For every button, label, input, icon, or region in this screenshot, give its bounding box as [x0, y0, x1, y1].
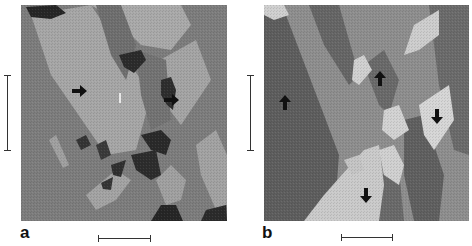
horizontal-scale-bar-a — [98, 238, 151, 239]
panel-label-b: b — [262, 224, 272, 241]
horizontal-scale-bar-b — [341, 237, 393, 238]
arrow-up-icon — [374, 71, 386, 87]
panel-label-a: a — [20, 224, 29, 241]
vertical-scale-bar-b — [250, 75, 251, 151]
arrow-up-icon — [279, 95, 291, 111]
domain-map-a — [21, 5, 227, 221]
arrow-right-icon — [164, 94, 180, 106]
panel-a-image — [21, 5, 227, 221]
arrow-down-icon — [360, 188, 372, 204]
vertical-scale-bar-a — [7, 75, 8, 151]
arrow-down-icon — [431, 109, 443, 125]
arrow-right-icon — [72, 85, 88, 97]
